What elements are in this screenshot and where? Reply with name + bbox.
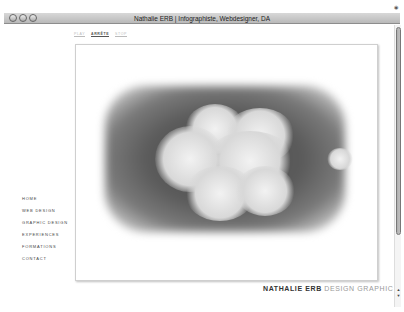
window-title: Nathalie ERB | Infographiste, Webdesigne… xyxy=(4,13,400,24)
main-nav: HOME WEB DESIGN GRAPHIC DESIGN EXPERIENC… xyxy=(22,196,68,262)
fractal-artwork xyxy=(105,86,345,232)
scroll-down-icon[interactable]: ▼ xyxy=(396,293,401,298)
nav-experiences[interactable]: EXPERIENCES xyxy=(22,232,68,238)
nav-web-design[interactable]: WEB DESIGN xyxy=(22,208,68,214)
title-bar[interactable]: Nathalie ERB | Infographiste, Webdesigne… xyxy=(4,13,400,24)
brand-signature: NATHALIE ERB DESIGN GRAPHIC xyxy=(263,285,393,292)
stop-link[interactable]: STOP xyxy=(115,32,127,37)
toolbar-toggle-icon[interactable]: ◉ xyxy=(394,4,401,11)
nav-formations[interactable]: FORMATIONS xyxy=(22,244,68,250)
scroll-up-icon[interactable]: ▲ xyxy=(396,287,401,292)
nav-graphic-design[interactable]: GRAPHIC DESIGN xyxy=(22,220,68,226)
brand-name: NATHALIE ERB xyxy=(263,285,322,292)
pause-link[interactable]: ARRÊTE xyxy=(91,32,109,37)
scrollbar-thumb[interactable] xyxy=(396,27,401,235)
nav-contact[interactable]: CONTACT xyxy=(22,256,68,262)
vertical-scrollbar[interactable]: ▲ ▼ xyxy=(394,25,401,307)
cloud-shape xyxy=(235,166,295,216)
nav-home[interactable]: HOME xyxy=(22,196,68,202)
cloud-shape xyxy=(327,148,353,170)
play-link[interactable]: PLAY xyxy=(74,32,85,37)
browser-window: Nathalie ERB | Infographiste, Webdesigne… xyxy=(0,0,404,312)
slideshow-nav: PLAY ARRÊTE STOP xyxy=(74,32,127,37)
brand-tagline: DESIGN GRAPHIC xyxy=(322,285,394,292)
